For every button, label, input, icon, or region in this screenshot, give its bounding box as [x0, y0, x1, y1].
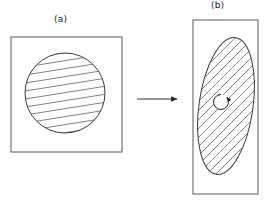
panel-b-label: (b) [211, 0, 224, 10]
diagram-canvas [0, 0, 269, 204]
figure-container: (a) (b) [0, 0, 269, 204]
rotation-marker-group [213, 94, 228, 109]
panel-a-label: (a) [54, 14, 67, 24]
panel-b-group [186, 0, 269, 204]
panel-a-group [11, 21, 122, 173]
